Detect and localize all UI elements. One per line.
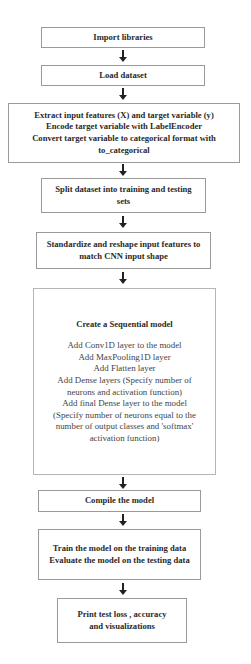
step-text: and visualizations bbox=[89, 621, 155, 633]
step-text: number of output classes and 'softmax' bbox=[56, 421, 194, 433]
step-text: sets bbox=[117, 196, 130, 208]
step-text: Add Conv1D layer to the model bbox=[67, 340, 181, 352]
step-text: Compile the model bbox=[85, 495, 154, 507]
step-load-dataset: Load dataset bbox=[41, 65, 205, 86]
down-arrow-icon bbox=[118, 164, 128, 177]
step-import-libraries: Import libraries bbox=[41, 27, 205, 48]
step-split-dataset: Split dataset into training and testing … bbox=[41, 178, 206, 213]
step-extract-encode: Extract input features (X) and target va… bbox=[8, 103, 240, 163]
step-text: Add MaxPooling1D layer bbox=[78, 352, 170, 364]
step-text: (Specify number of neurons equal to the bbox=[53, 410, 196, 422]
down-arrow-icon bbox=[118, 216, 128, 229]
step-standardize-reshape: Standardize and reshape input features t… bbox=[36, 232, 211, 269]
step-text: Extract input features (X) and target va… bbox=[34, 110, 214, 122]
step-text: match CNN input shape bbox=[79, 251, 168, 263]
step-text: Import libraries bbox=[93, 32, 152, 44]
step-text: Add Dense layers (Specify number of bbox=[57, 375, 191, 387]
step-text: Evaluate the model on the testing data bbox=[49, 555, 189, 567]
down-arrow-icon bbox=[118, 88, 128, 101]
down-arrow-icon bbox=[118, 50, 128, 63]
down-arrow-icon bbox=[118, 583, 128, 596]
step-text: Standardize and reshape input features t… bbox=[47, 239, 201, 251]
step-text: activation function) bbox=[90, 433, 160, 445]
step-text: Print test loss , accuracy bbox=[77, 609, 166, 621]
step-text: to_categorical bbox=[98, 145, 150, 157]
step-text: Load dataset bbox=[99, 70, 147, 82]
step-train-evaluate: Train the model on the training data Eva… bbox=[38, 529, 201, 580]
step-text: Convert target variable to categorical f… bbox=[32, 133, 216, 145]
step-compile-model: Compile the model bbox=[38, 490, 201, 512]
step-text: Train the model on the training data bbox=[53, 543, 187, 555]
down-arrow-icon bbox=[118, 514, 128, 527]
step-text: neurons and activation function) bbox=[67, 387, 182, 399]
step-print-results: Print test loss , accuracy and visualiza… bbox=[57, 598, 187, 643]
step-text: Encode target variable with LabelEncoder bbox=[46, 121, 202, 133]
down-arrow-icon bbox=[118, 477, 128, 490]
step-text: Add Flatten layer bbox=[93, 363, 155, 375]
step-title: Create a Sequential model bbox=[76, 319, 173, 331]
down-arrow-icon bbox=[118, 272, 128, 285]
step-create-sequential-model: Create a Sequential model Add Conv1D lay… bbox=[33, 288, 216, 475]
step-text: Split dataset into training and testing bbox=[55, 184, 191, 196]
step-text: Add final Dense layer to the model bbox=[62, 398, 187, 410]
